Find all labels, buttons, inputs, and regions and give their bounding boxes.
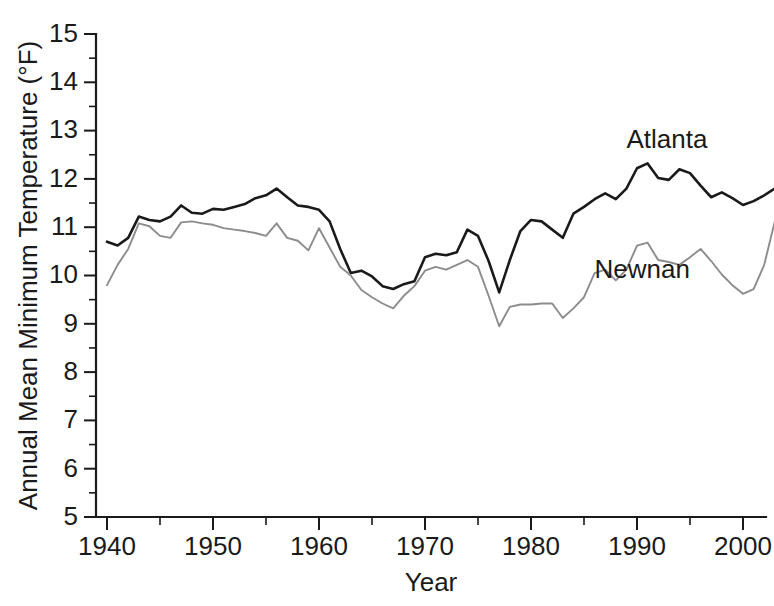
x-axis-tick-labels: 1940195019601970198019902000 — [78, 531, 772, 561]
y-tick-label: 12 — [49, 163, 78, 193]
y-tick-label: 8 — [64, 356, 78, 386]
y-tick-label: 10 — [49, 259, 78, 289]
y-tick-label: 5 — [64, 501, 78, 531]
y-tick-label: 7 — [64, 404, 78, 434]
x-tick-label: 1960 — [290, 531, 348, 561]
y-tick-label: 14 — [49, 66, 78, 96]
y-axis-tick-labels: 56789101112131415 — [49, 18, 78, 531]
x-tick-label: 1970 — [396, 531, 454, 561]
series-label-atlanta: Atlanta — [626, 124, 707, 154]
series-annotation-labels: AtlantaNewnan — [595, 124, 708, 284]
y-tick-label: 9 — [64, 308, 78, 338]
y-axis-title: Annual Mean Minimum Temperature (°F) — [13, 41, 43, 510]
x-tick-label: 2000 — [714, 531, 772, 561]
x-axis-major-ticks — [107, 517, 743, 530]
data-series-group — [107, 163, 774, 326]
y-tick-label: 15 — [49, 18, 78, 48]
chart-container: 56789101112131415 1940195019601970198019… — [0, 0, 774, 606]
y-tick-label: 13 — [49, 114, 78, 144]
series-label-newnan: Newnan — [595, 254, 690, 284]
x-tick-label: 1950 — [184, 531, 242, 561]
line-chart: 56789101112131415 1940195019601970198019… — [0, 0, 774, 606]
x-tick-label: 1980 — [502, 531, 560, 561]
x-tick-label: 1990 — [608, 531, 666, 561]
y-tick-label: 11 — [51, 211, 78, 241]
x-tick-label: 1940 — [78, 531, 136, 561]
y-tick-label: 6 — [64, 453, 78, 483]
x-axis-title: Year — [405, 567, 458, 597]
